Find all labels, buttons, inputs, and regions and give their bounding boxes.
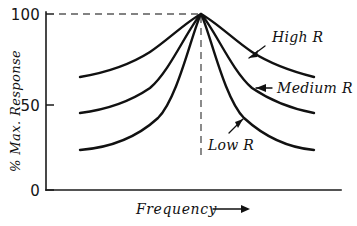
- x-axis-title: Frequency: [135, 201, 218, 217]
- x-axis-direction-arrow-head: [241, 205, 250, 213]
- y-axis-label-50: 50: [21, 97, 41, 115]
- chart-page: High R Medium R Low R 100 50 0 % Max. Re…: [0, 0, 357, 226]
- curve-label-low-r: Low R: [207, 137, 254, 153]
- y-axis-title: % Max. Response: [8, 50, 23, 172]
- resonance-curve-chart: High R Medium R Low R 100 50 0 % Max. Re…: [0, 0, 357, 226]
- y-axis-label-100: 100: [11, 6, 40, 24]
- curve-label-medium-r: Medium R: [276, 80, 353, 96]
- curve-label-high-r: High R: [271, 29, 324, 45]
- y-axis-label-0: 0: [30, 182, 40, 200]
